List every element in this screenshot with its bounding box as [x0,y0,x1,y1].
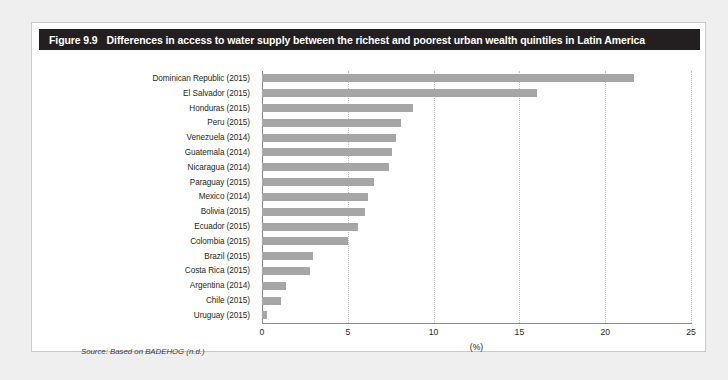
bar [262,163,389,171]
y-axis-category-labels: Dominican Republic (2015)El Salvador (20… [32,71,256,323]
category-label-row: El Salvador (2015) [32,86,256,101]
category-label: Uruguay (2015) [194,311,250,320]
category-label-row: Guatemala (2014) [32,145,256,160]
x-axis-line [262,323,692,324]
bar-series [262,71,691,323]
bar-row [262,145,691,160]
bar-row [262,278,691,293]
category-label-row: Argentina (2014) [32,278,256,293]
bar [262,134,396,142]
x-tick-label: 5 [345,327,350,337]
category-label: Argentina (2014) [190,281,250,290]
category-label-row: Uruguay (2015) [32,308,256,323]
bar [262,119,401,127]
category-label: Dominican Republic (2015) [152,74,250,83]
bar [262,267,310,275]
category-label: Paraguay (2015) [190,178,250,187]
figure-header: Figure 9.9 Differences in access to wate… [39,29,700,50]
gridline-25 [691,71,692,323]
x-tick-label: 15 [515,327,525,337]
bar-row [262,308,691,323]
bar-row [262,175,691,190]
bar-row [262,264,691,279]
x-axis-title: (%) [262,342,691,352]
category-label: Guatemala (2014) [185,148,250,157]
category-label-row: Chile (2015) [32,293,256,308]
bar-row [262,190,691,205]
bar-row [262,71,691,86]
category-label-row: Paraguay (2015) [32,175,256,190]
category-label-row: Honduras (2015) [32,101,256,116]
x-tick-label: 25 [686,327,696,337]
bar [262,89,537,97]
bar [262,223,358,231]
category-label-row: Peru (2015) [32,115,256,130]
category-label: Colombia (2015) [190,237,250,246]
category-label-row: Brazil (2015) [32,249,256,264]
bar [262,282,286,290]
category-label-row: Ecuador (2015) [32,219,256,234]
category-label: Chile (2015) [206,296,250,305]
bar-row [262,249,691,264]
x-tick-label: 0 [260,327,265,337]
bar-row [262,293,691,308]
category-label: Venezuela (2014) [187,133,250,142]
bar-row [262,160,691,175]
category-label: Honduras (2015) [189,104,250,113]
category-label-row: Mexico (2014) [32,190,256,205]
bar-row [262,204,691,219]
bar [262,104,413,112]
bar-row [262,130,691,145]
x-tick-label: 20 [600,327,610,337]
bar-row [262,86,691,101]
category-label: Peru (2015) [207,118,250,127]
plot-area [262,71,691,323]
bar-row [262,234,691,249]
category-label: Ecuador (2015) [194,222,250,231]
chart-container: Dominican Republic (2015)El Salvador (20… [32,57,707,353]
category-label: Mexico (2014) [199,192,250,201]
figure-panel: Figure 9.9 Differences in access to wate… [31,22,706,352]
bar-row [262,115,691,130]
category-label-row: Costa Rica (2015) [32,264,256,279]
category-label: Bolivia (2015) [201,207,250,216]
source-note: Source: Based on BADEHOG (n.d.) [81,347,205,356]
bar [262,178,374,186]
category-label-row: Bolivia (2015) [32,204,256,219]
bar [262,297,281,305]
x-tick-label: 10 [429,327,439,337]
category-label: Nicaragua (2014) [188,163,250,172]
category-label: Costa Rica (2015) [185,266,250,275]
bar [262,193,368,201]
category-label: El Salvador (2015) [183,89,250,98]
category-label: Brazil (2015) [204,252,250,261]
bar [262,311,267,319]
category-label-row: Colombia (2015) [32,234,256,249]
category-label-row: Nicaragua (2014) [32,160,256,175]
bar [262,74,634,82]
bar-row [262,101,691,116]
bar [262,237,348,245]
bar [262,208,365,216]
figure-title: Differences in access to water supply be… [107,34,645,46]
bar [262,252,313,260]
figure-number: Figure 9.9 [49,34,98,46]
bar [262,148,392,156]
bar-row [262,219,691,234]
category-label-row: Dominican Republic (2015) [32,71,256,86]
category-label-row: Venezuela (2014) [32,130,256,145]
